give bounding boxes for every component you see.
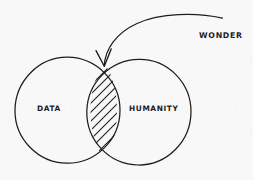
set-label-humanity: HUMANITY — [129, 104, 178, 113]
set-label-data: DATA — [37, 104, 61, 113]
sketch-diagram-canvas: DATA HUMANITY WONDER — [0, 0, 253, 180]
intersection-hatching — [84, 54, 124, 172]
wonder-arrow-curve — [104, 14, 222, 66]
wonder-arrowhead-icon — [96, 49, 111, 66]
venn-diagram-sketch — [0, 0, 253, 180]
annotation-label-wonder: WONDER — [199, 31, 243, 40]
